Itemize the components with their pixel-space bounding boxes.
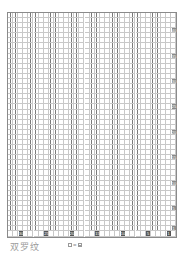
- row-number-label: 35: [172, 54, 176, 58]
- row-number-label: 40: [172, 28, 176, 32]
- row-number-label: 30: [172, 79, 176, 83]
- column-number-label: 15: [95, 231, 99, 235]
- column-number-label: 5: [146, 231, 150, 235]
- row-number-label: 10: [172, 181, 176, 185]
- column-number-label: 20: [70, 231, 74, 235]
- column-number-label: 30: [19, 231, 23, 235]
- knitting-chart: 4035302520151051302520151051: [7, 12, 177, 238]
- row-number-label: 1: [172, 226, 176, 230]
- column-number-label: 1: [167, 231, 171, 235]
- knit-symbol-icon: [78, 243, 82, 247]
- column-number-label: 25: [44, 231, 48, 235]
- legend-equals: =: [73, 242, 77, 248]
- row-number-label: 15: [172, 155, 176, 159]
- chart-grid: 4035302520151051302520151051: [7, 12, 177, 238]
- row-number-label: 5: [172, 206, 176, 210]
- symbol-legend: =: [68, 242, 82, 248]
- row-number-label: 25: [172, 104, 176, 108]
- chart-title: 双罗纹: [10, 240, 40, 253]
- knit-square-icon: [68, 243, 72, 247]
- row-number-label: 20: [172, 130, 176, 134]
- corner-cell: [171, 231, 176, 236]
- column-number-label: 10: [121, 231, 125, 235]
